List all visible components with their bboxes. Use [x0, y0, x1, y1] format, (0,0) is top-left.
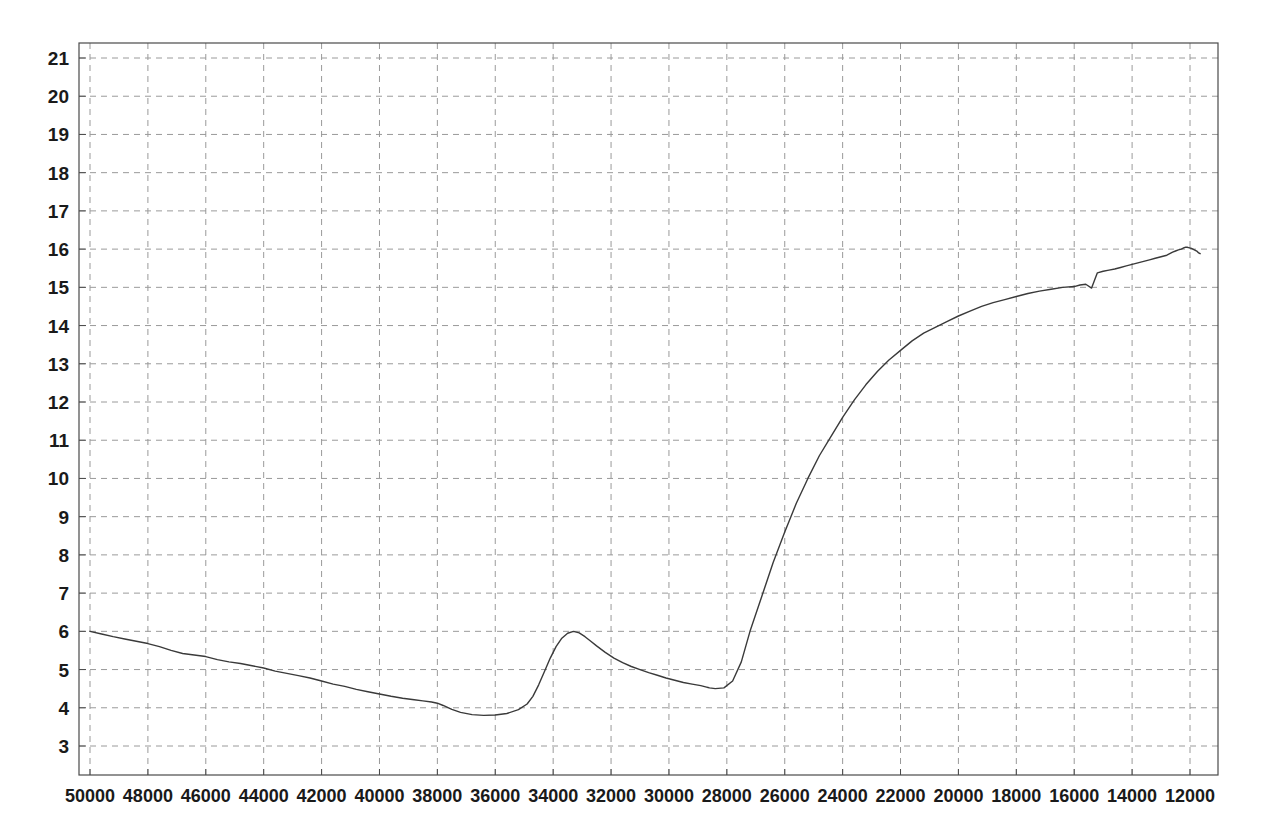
x-tick-label: 12000 — [1165, 786, 1215, 806]
x-tick-label: 36000 — [470, 786, 520, 806]
x-tick-label: 34000 — [528, 786, 578, 806]
y-tick-label: 19 — [48, 124, 69, 145]
x-tick-label: 44000 — [239, 786, 289, 806]
x-tick-label: 38000 — [412, 786, 462, 806]
x-tick-label: 26000 — [760, 786, 810, 806]
x-tick-label: 46000 — [181, 786, 231, 806]
y-tick-label: 17 — [48, 201, 69, 222]
x-tick-label: 48000 — [123, 786, 173, 806]
x-tick-label: 28000 — [702, 786, 752, 806]
chart-container: 5000048000460004400042000400003800036000… — [0, 0, 1266, 840]
x-tick-label: 20000 — [933, 786, 983, 806]
y-tick-label: 14 — [48, 316, 70, 337]
x-tick-label: 14000 — [1107, 786, 1157, 806]
x-tick-label: 24000 — [818, 786, 868, 806]
y-tick-label: 7 — [58, 583, 69, 604]
y-tick-label: 15 — [48, 277, 70, 298]
y-tick-label: 8 — [58, 545, 69, 566]
y-tick-label: 10 — [48, 468, 69, 489]
y-tick-label: 20 — [48, 86, 69, 107]
x-tick-label: 40000 — [354, 786, 404, 806]
x-tick-label: 16000 — [1049, 786, 1099, 806]
y-tick-label: 6 — [58, 621, 69, 642]
x-tick-label: 30000 — [644, 786, 694, 806]
y-tick-label: 18 — [48, 163, 69, 184]
x-tick-label: 50000 — [65, 786, 115, 806]
y-tick-label: 4 — [58, 698, 69, 719]
y-tick-label: 11 — [49, 430, 70, 451]
chart-background — [0, 0, 1266, 840]
y-tick-label: 16 — [48, 239, 69, 260]
x-tick-label: 32000 — [586, 786, 636, 806]
y-tick-label: 9 — [58, 507, 69, 528]
y-tick-label: 5 — [58, 660, 69, 681]
y-tick-label: 3 — [58, 736, 69, 757]
line-chart: 5000048000460004400042000400003800036000… — [0, 0, 1266, 840]
y-tick-label: 12 — [48, 392, 69, 413]
y-tick-label: 13 — [48, 354, 69, 375]
x-tick-label: 18000 — [991, 786, 1041, 806]
x-tick-label: 42000 — [297, 786, 347, 806]
x-tick-label: 22000 — [875, 786, 925, 806]
y-tick-label: 21 — [48, 48, 70, 69]
